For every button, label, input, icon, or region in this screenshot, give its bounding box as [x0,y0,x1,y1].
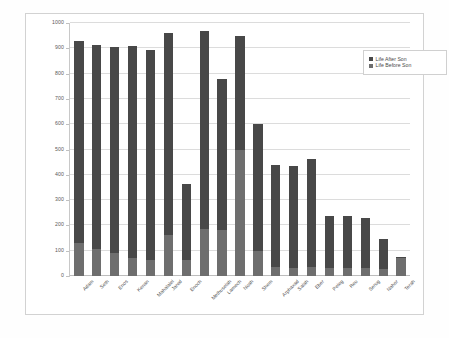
bar-column [146,23,155,276]
bar-column [200,23,209,276]
chart-legend: Life After SonLife Before Son [363,50,447,75]
y-axis-tick-mark [66,124,69,125]
y-axis-tick-label: 0 [28,273,64,278]
bar-segment-life-after-son [182,184,191,260]
bar-segment-life-before-son [361,268,370,276]
y-axis-tick-mark [66,251,69,252]
bar-segment-life-after-son [164,33,173,235]
bar-segment-life-after-son [74,41,83,243]
bar-segment-life-before-son [146,260,155,276]
bar-column [74,23,83,276]
bar-segment-life-after-son [307,159,316,268]
x-axis-tick-label: Nahor [386,279,399,292]
y-axis-tick-mark [66,175,69,176]
y-axis-tick-label: 200 [28,223,64,228]
bar-segment-life-before-son [217,230,226,276]
x-axis-tick-label: Reu [349,279,359,289]
bar-column [235,23,244,276]
bar-stack [164,33,173,276]
x-axis-tick-label: Eber [314,279,325,290]
x-axis-tick-label: Enos [117,279,129,291]
y-axis-tick-label: 800 [28,71,64,76]
plot-area [70,23,410,276]
x-axis-tick-label: Terah [404,279,416,291]
y-axis-tick-label: 300 [28,197,64,202]
legend-swatch-icon [369,64,373,68]
bar-segment-life-before-son [182,260,191,276]
bar-column [128,23,137,276]
bar-segment-life-before-son [271,267,280,276]
bar-stack [289,166,298,276]
bar-stack [128,46,137,276]
x-axis-tick-label: Shem [261,279,274,292]
y-axis-tick-mark [66,23,69,24]
y-axis-tick-mark [66,200,69,201]
bar-column [253,23,262,276]
bar-segment-life-before-son [128,258,137,276]
bar-segment-life-after-son [253,124,262,251]
bar-column [307,23,316,276]
x-axis-tick-label: Enoch [189,279,203,293]
y-axis-tick-label: 900 [28,46,64,51]
bar-column [164,23,173,276]
bar-segment-life-after-son [128,46,137,259]
bar-stack [343,216,352,276]
y-axis-tick-mark [66,225,69,226]
bar-segment-life-after-son [379,239,388,269]
legend-label: Life After Son [376,57,407,62]
bar-segment-life-before-son [110,253,119,276]
bar-column [289,23,298,276]
bar-segment-life-before-son [92,249,101,276]
bar-stack [146,50,155,276]
bar-segment-life-after-son [361,218,370,269]
bar-stack [182,184,191,276]
bar-stack [396,257,405,276]
y-axis-tick-label: 700 [28,96,64,101]
y-axis-tick-label: 400 [28,172,64,177]
bar-column [343,23,352,276]
bar-segment-life-before-son [396,258,405,276]
y-axis-tick-label: 500 [28,147,64,152]
bar-column [182,23,191,276]
bar-segment-life-before-son [74,243,83,276]
y-axis-tick-label: 100 [28,248,64,253]
y-axis-tick-mark [66,99,69,100]
y-axis-tick-label: 1000 [28,20,64,25]
chart-frame: 01002003004005006007008009001000 AdamSet… [25,13,424,315]
bar-column [217,23,226,276]
legend-label: Life Before Son [376,63,412,68]
bar-column [325,23,334,276]
bar-segment-life-before-son [307,267,316,276]
bar-segment-life-after-son [110,47,119,253]
y-axis-tick-mark [66,276,69,277]
bar-segment-life-after-son [271,165,280,267]
bar-segment-life-after-son [200,31,209,229]
bar-stack [325,216,334,276]
bar-stack [379,239,388,276]
x-axis-tick-label: Noah [243,279,255,291]
bar-segment-life-after-son [146,50,155,260]
bar-segment-life-before-son [325,268,334,276]
bar-stack [92,45,101,276]
bar-stack [271,165,280,276]
bar-segment-life-before-son [253,251,262,276]
bar-segment-life-before-son [289,268,298,276]
bar-stack [74,41,83,276]
bar-column [110,23,119,276]
bar-segment-life-before-son [164,235,173,276]
x-axis-tick-label: Seth [99,279,110,290]
bar-stack [361,218,370,276]
bar-segment-life-after-son [289,166,298,268]
bar-segment-life-before-son [343,268,352,276]
x-axis-tick-label: Serug [368,279,381,292]
bar-stack [200,31,209,276]
x-axis-tick-label: Kenan [136,279,150,293]
bar-segment-life-after-son [325,216,334,269]
bar-segment-life-after-son [235,36,244,150]
chart-figure: 01002003004005006007008009001000 AdamSet… [0,0,449,338]
y-axis-tick-mark [66,150,69,151]
bar-stack [217,79,226,276]
x-axis-tick-label: Adam [82,279,95,292]
bar-stack [253,124,262,276]
bar-column [92,23,101,276]
